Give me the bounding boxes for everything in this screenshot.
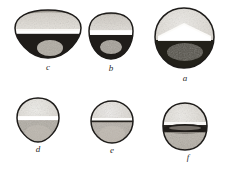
illustration-plate: c [0, 0, 227, 176]
specimen-c [12, 8, 84, 60]
specimen-b [87, 11, 135, 61]
specimen-d [14, 96, 62, 144]
specimen-label-c: c [41, 62, 55, 72]
specimen-a [152, 6, 217, 71]
specimen-f [160, 101, 210, 152]
specimen-label-f: f [181, 152, 195, 162]
specimen-label-d: d [31, 144, 45, 154]
specimen-e [89, 99, 135, 145]
specimen-label-e: e [105, 145, 119, 155]
specimen-label-b: b [104, 63, 118, 73]
specimen-label-a: a [178, 73, 192, 83]
